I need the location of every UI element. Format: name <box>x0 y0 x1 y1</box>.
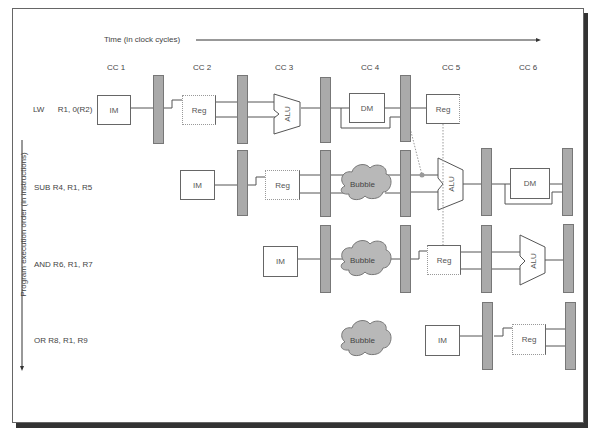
instruction-label-sub: SUB R4, R1, R5 <box>34 183 92 192</box>
instruction-memory-and: IM <box>263 246 298 277</box>
instruction-memory-or: IM <box>425 325 460 356</box>
svg-text:ALU: ALU <box>529 253 538 269</box>
pipeline-register-or-2 <box>565 302 576 370</box>
instruction-label-or: OR R8, R1, R9 <box>34 336 88 345</box>
pipeline-register-lw-4 <box>400 75 411 142</box>
register-file-read-lw: Reg <box>182 95 216 125</box>
cc-label-4: CC 4 <box>361 63 379 72</box>
instruction-label-lw: LW R1, 0(R2) <box>33 105 92 114</box>
pipeline-register-and-2 <box>400 225 411 293</box>
cc-label-3: CC 3 <box>275 63 293 72</box>
pipeline-register-or-1 <box>482 302 493 370</box>
pipeline-register-sub-1 <box>237 150 248 216</box>
cc-label-2: CC 2 <box>193 63 211 72</box>
pipeline-register-and-4 <box>563 224 574 293</box>
pipeline-register-sub-3 <box>400 150 411 217</box>
cc-label-1: CC 1 <box>107 63 125 72</box>
order-axis-label: Program execution order (in instructions… <box>19 135 28 315</box>
pipeline-register-lw-3 <box>320 77 331 143</box>
instruction-memory-lw: IM <box>97 95 131 125</box>
data-memory-sub: DM <box>510 168 550 199</box>
register-file-read-or: Reg <box>512 324 546 355</box>
pipeline-register-lw-1 <box>153 75 164 144</box>
arrows-and-connectors: ALU ALU ALU <box>0 0 597 437</box>
pipeline-register-sub-5 <box>562 148 573 216</box>
pipeline-register-sub-2 <box>320 150 331 217</box>
pipeline-register-sub-4 <box>481 148 492 216</box>
register-file-read-and: Reg <box>427 245 461 275</box>
pipeline-register-lw-2 <box>237 75 248 144</box>
svg-text:ALU: ALU <box>283 106 292 122</box>
instruction-label-and: AND R6, R1, R7 <box>34 260 93 269</box>
instruction-memory-sub: IM <box>180 170 215 200</box>
cc-label-5: CC 5 <box>442 63 460 72</box>
cc-label-6: CC 6 <box>519 63 537 72</box>
register-file-read-sub: Reg <box>265 170 300 200</box>
data-memory-lw: DM <box>349 93 385 123</box>
svg-text:ALU: ALU <box>447 176 456 192</box>
pipeline-register-and-1 <box>320 225 331 293</box>
bubble-label-sub: Bubble <box>350 180 375 189</box>
bubble-label-or: Bubble <box>350 336 375 345</box>
bubble-label-and: Bubble <box>350 256 375 265</box>
pipeline-register-and-3 <box>481 225 492 293</box>
register-file-write-lw: Reg <box>426 94 460 124</box>
